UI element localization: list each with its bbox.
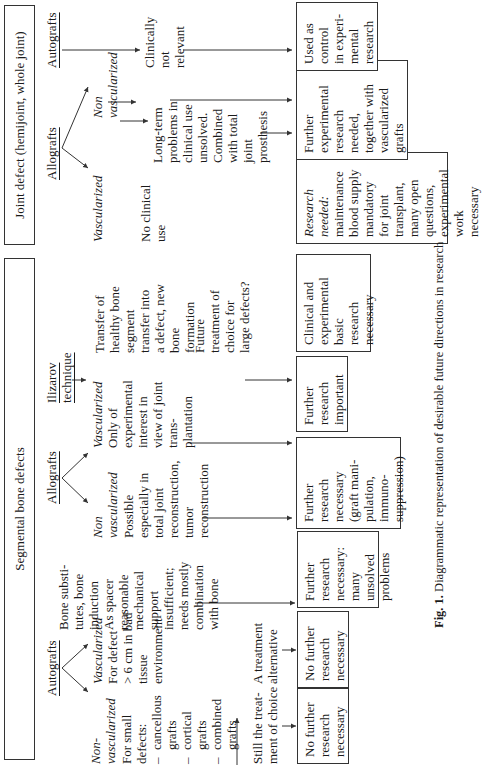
joint-allo-nonvasc-box: Further experimental research needed, to… (296, 60, 408, 160)
seg-allo-vasc-text: Only of experimental interest in view of… (105, 358, 195, 448)
figure-caption: Fig. 1. Diagrammatic representation of d… (432, 28, 447, 628)
seg-allo-nonvasc-text: Possible especially in total joint recon… (121, 438, 211, 538)
ilizarov-outcome: Future treatment of choice for large def… (192, 253, 252, 353)
ilizarov-text: Transfer of healthy bone segment transfe… (92, 253, 197, 353)
list-item: –cancellous grafts (149, 692, 179, 764)
joint-allo-nonvasc-text: Long-term problems in clinical use unsol… (150, 63, 270, 163)
caption-text: Diagrammatic representation of desirable… (432, 242, 446, 595)
ilizarov-box: Clinical and experimental basic research… (296, 254, 371, 352)
joint-allo-vasc-box-text: maintenance blood supply mandatory for j… (331, 153, 485, 243)
joint-allografts-label: Allografts (44, 127, 59, 180)
joint-auto-text: Clinically not relevant (142, 0, 187, 68)
seg-allo-vasc-box: Further research important (296, 356, 348, 432)
seg-auto-nonvasc-text: For small defects: (119, 692, 149, 764)
list-item: –combined grafts (209, 692, 239, 764)
seg-auto-vasc-outcome: A treatment alternative (250, 604, 280, 684)
joint-allo-vasc-label: Vascularized (90, 176, 105, 242)
segmental-header: Segmental bone defects (12, 447, 27, 570)
seg-allo-vasc-label: Vascularized (90, 382, 105, 448)
joint-allo-nonvasc-label: Non vascularized (90, 52, 120, 118)
ilizarov-label: Ilizarov technique (44, 333, 74, 403)
joint-allo-vasc-text: No clinical use (138, 162, 168, 242)
seg-allografts-label: Allografts (44, 451, 59, 504)
seg-auto-nonvasc-label: Non- vascularized (88, 692, 118, 764)
seg-auto-nonvasc-items: –cancellous grafts –cortical grafts –com… (149, 692, 239, 764)
seg-allo-nonvasc-box: Further research necessary (graft mani- … (296, 437, 401, 529)
seg-auto-nonvasc-outcome: Still the treat- ment of choice (250, 684, 280, 764)
joint-allo-vasc-box: Research needed: maintenance blood suppl… (296, 152, 448, 244)
bone-substitutes-text: Bone substi- tutes, bone induction As sp… (56, 540, 221, 630)
list-item: –cortical grafts (179, 692, 209, 764)
joint-header-box: Joint defect (hemijoint, whole joint) (4, 5, 35, 245)
seg-allo-nonvasc-label: Non vascularized (90, 472, 120, 538)
bone-substitutes-box: Further research necessary: many unsolve… (297, 531, 379, 608)
joint-allo-vasc-box-title: Research needed: (297, 153, 331, 243)
joint-autografts-label: Autografts (44, 12, 59, 68)
joint-header: Joint defect (hemijoint, whole joint) (12, 31, 27, 218)
segmental-header-box: Segmental bone defects (4, 258, 35, 760)
joint-auto-box: Used as control in experi- mental resear… (296, 2, 378, 71)
caption-label: Fig. 1. (432, 595, 446, 628)
seg-auto-nonvasc-box: No further research necessary (297, 688, 349, 764)
seg-autografts-label: Autografts (44, 640, 59, 696)
seg-auto-vasc-box: No further research necessary (297, 611, 349, 688)
